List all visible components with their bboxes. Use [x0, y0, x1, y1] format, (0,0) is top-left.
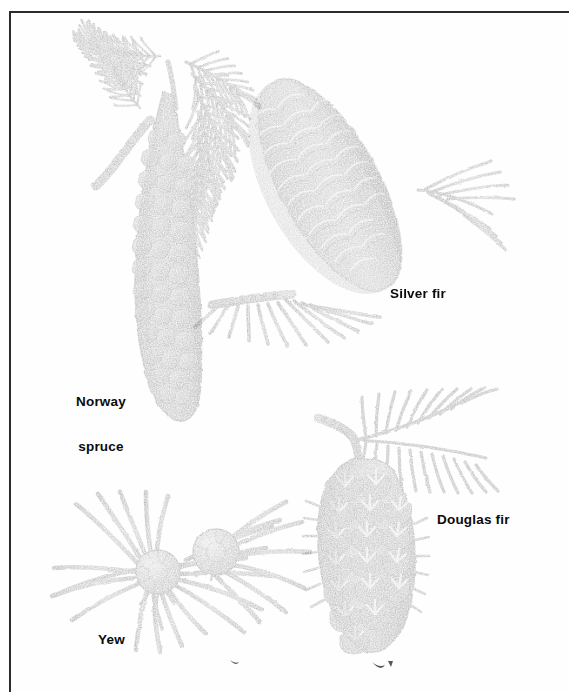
stray-marks	[230, 660, 393, 668]
specimen-yew	[52, 492, 310, 652]
specimen-norway-spruce	[61, 19, 274, 421]
yew-needles	[52, 492, 310, 652]
label-douglas-fir: Douglas fir	[437, 512, 510, 527]
silver-fir-needles-right	[418, 161, 514, 250]
label-silver-fir: Silver fir	[390, 286, 446, 301]
label-norway-spruce-line2: spruce	[76, 439, 126, 454]
illustration-canvas	[0, 0, 569, 692]
label-norway-spruce-line1: Norway	[76, 394, 126, 409]
label-yew: Yew	[98, 632, 125, 647]
specimen-silver-fir	[195, 58, 514, 346]
illustration-plate: Norway spruce Silver fir Douglas fir Yew	[0, 0, 569, 692]
label-norway-spruce: Norway spruce	[76, 364, 126, 484]
spruce-cone-scales	[132, 92, 197, 417]
